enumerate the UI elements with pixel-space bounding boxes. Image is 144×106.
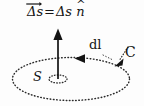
formula-magnitude: Δs xyxy=(56,4,72,19)
formula-vector-symbol: Δs xyxy=(27,4,43,19)
surface-label: S xyxy=(33,70,42,83)
formula-equals-sign: = xyxy=(43,4,56,19)
line-element-label: dl xyxy=(89,38,101,51)
physics-diagram-canvas: Δs =Δs ^ n dl C S xyxy=(0,0,144,106)
circulation-direction-arrowhead xyxy=(75,54,86,63)
vector-delta-s-group: Δs xyxy=(27,5,43,18)
unit-normal-group: ^ n xyxy=(76,5,84,18)
normal-vector-formula-label: Δs =Δs ^ n xyxy=(27,5,85,18)
vector-arrow-overbar-icon xyxy=(26,1,42,6)
dl-leader-line xyxy=(103,55,113,60)
normal-vector-arrowhead xyxy=(53,29,62,41)
hat-accent-icon: ^ xyxy=(76,0,84,10)
boundary-curve-ellipse xyxy=(13,58,130,101)
curve-label: C xyxy=(125,45,136,59)
curve-leader-arrowhead xyxy=(115,59,124,67)
